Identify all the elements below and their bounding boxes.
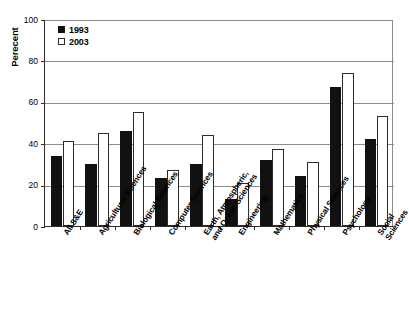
x-axis-tick — [185, 226, 186, 230]
bar-1993-all-s-e — [51, 156, 63, 226]
y-axis-tick — [41, 103, 45, 104]
y-axis-tick-label: 20 — [18, 181, 38, 190]
bar-2003-social-sciences — [377, 116, 389, 226]
bar-chart: Perecent 020406080100 All S&EAgricultura… — [0, 0, 409, 327]
y-axis-tick — [41, 144, 45, 145]
bar-1993-agricultural-sciences — [85, 164, 97, 226]
bar-2003-psychology — [342, 73, 354, 226]
x-axis-tick — [359, 226, 360, 230]
y-axis-tick-label: 100 — [18, 16, 38, 25]
chart-legend: 19932003 — [58, 24, 114, 48]
x-axis-tick — [115, 226, 116, 230]
legend-item-label: 1993 — [69, 25, 89, 35]
legend-item-2003: 2003 — [58, 36, 114, 47]
y-axis-tick — [41, 61, 45, 62]
x-axis-tick — [289, 226, 290, 230]
x-axis-tick — [254, 226, 255, 230]
legend-item-1993: 1993 — [58, 24, 114, 35]
y-axis-tick — [41, 186, 45, 187]
y-axis-tick — [41, 20, 45, 21]
legend-item-label: 2003 — [69, 37, 89, 47]
y-axis-tick-label: 80 — [18, 57, 38, 66]
bar-group — [365, 19, 389, 226]
x-axis-tick — [80, 226, 81, 230]
x-axis-tick — [324, 226, 325, 230]
hollow-square-icon — [58, 38, 65, 45]
x-axis-tick — [150, 226, 151, 230]
bar-2003-agricultural-sciences — [98, 133, 110, 226]
y-axis-tick-label: 0 — [18, 223, 38, 232]
y-axis-tick-label: 60 — [18, 98, 38, 107]
filled-square-icon — [58, 26, 65, 33]
plot-area — [44, 20, 393, 227]
y-axis-tick — [41, 227, 45, 228]
bar-1993-social-sciences — [365, 139, 377, 226]
bar-group — [51, 19, 75, 226]
y-axis-tick-label: 40 — [18, 140, 38, 149]
bar-group — [85, 19, 109, 226]
